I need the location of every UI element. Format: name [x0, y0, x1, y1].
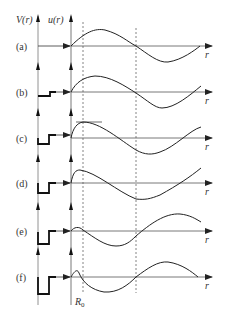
- panel-label-b: (b): [16, 87, 28, 99]
- svg-text:r: r: [205, 95, 209, 106]
- svg-text:r: r: [205, 234, 209, 245]
- svg-text:r: r: [205, 280, 209, 291]
- panel-label-a: (a): [16, 41, 27, 53]
- panel-label-d: (d): [16, 178, 28, 190]
- panel-a: (a) r: [16, 30, 212, 63]
- svg-text:r: r: [205, 186, 209, 197]
- v-axis-label: V(r): [16, 14, 33, 26]
- r0-label: R0: [74, 296, 85, 309]
- svg-text:r: r: [205, 49, 209, 60]
- panel-label-c: (c): [16, 133, 27, 145]
- wavefunction-diagram: V(r) u(r) (a) r (b) r (c) r (d) r (: [0, 0, 227, 319]
- svg-text:r: r: [205, 141, 209, 152]
- panel-e: (e) r: [16, 214, 212, 246]
- panel-f: (f) r: [16, 262, 212, 294]
- panel-d: (d) r: [16, 168, 212, 199]
- panel-label-f: (f): [16, 272, 26, 284]
- panel-b: (b) r: [16, 76, 212, 108]
- panel-label-e: (e): [16, 226, 27, 238]
- panel-c: (c) r: [16, 122, 212, 154]
- u-axis-label: u(r): [48, 14, 64, 26]
